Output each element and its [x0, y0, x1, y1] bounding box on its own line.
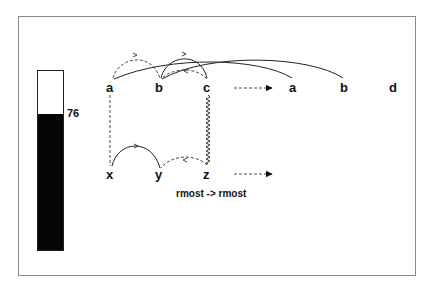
dashed-arc-a-b — [113, 60, 160, 78]
target-node-a: a — [289, 80, 297, 95]
arrow-head-icon — [133, 53, 137, 57]
target-node-d: d — [389, 80, 397, 95]
wavy-link-c-z — [206, 95, 210, 164]
dashed-arc-z-y — [161, 157, 207, 168]
diagram-caption: rmost -> rmost — [176, 188, 247, 199]
target-node-b: b — [340, 80, 348, 95]
graph-diagram: a b c a b d x y z rmost -> rmost — [0, 0, 434, 288]
arrow-head-icon — [182, 52, 186, 56]
arrow-head-icon — [183, 158, 187, 162]
node-z: z — [203, 167, 210, 182]
node-b: b — [155, 80, 163, 95]
node-c: c — [203, 80, 210, 95]
node-x: x — [106, 167, 114, 182]
solid-arc-x-y — [112, 146, 160, 168]
node-a: a — [106, 80, 114, 95]
node-y: y — [155, 167, 163, 182]
